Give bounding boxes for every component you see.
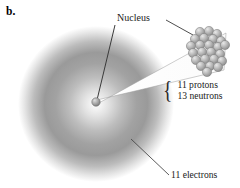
nucleon: [202, 67, 211, 76]
label-electrons: 11 electrons: [171, 169, 217, 180]
atom-structure-figure: b. Nucleus { 11 protons 13 neutrons 11 e…: [0, 0, 240, 188]
nucleon: [220, 40, 229, 49]
label-neutrons: 13 neutrons: [177, 90, 222, 101]
nucleus-composition-callout: { 11 protons 13 neutrons: [163, 79, 223, 102]
nucleus-composition-lines: 11 protons 13 neutrons: [177, 79, 222, 102]
nucleus-core-dot: [92, 98, 100, 106]
curly-brace-icon: {: [163, 79, 172, 101]
label-protons: 11 protons: [177, 79, 222, 90]
leader-line-nucleus-to-cluster: [166, 20, 193, 35]
label-nucleus: Nucleus: [117, 12, 150, 24]
nucleon: [213, 62, 222, 71]
panel-label: b.: [6, 6, 16, 18]
